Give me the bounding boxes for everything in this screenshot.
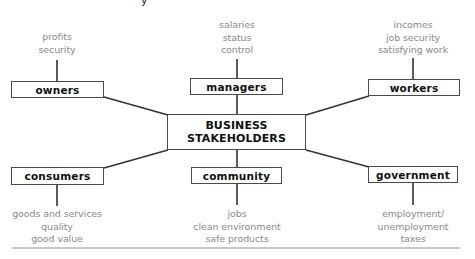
owners-center-connector	[104, 97, 168, 115]
interest-item: safe products	[182, 233, 292, 246]
government-center-connector	[306, 150, 369, 167]
interest-item: taxes	[363, 233, 463, 246]
interest-item: good value	[2, 233, 112, 246]
workers-interests: incomes job security satisfying work	[363, 19, 463, 57]
interest-item: security	[17, 44, 97, 57]
center-title-line1: BUSINESS	[205, 119, 267, 132]
interest-item: clean environment	[182, 221, 292, 234]
consumers-label: consumers	[25, 170, 91, 182]
government-label: government	[376, 169, 450, 181]
interest-item: goods and services	[2, 208, 112, 221]
interest-item: quality	[2, 221, 112, 234]
workers-center-connector	[306, 96, 369, 115]
consumers-interests: goods and services quality good value	[2, 208, 112, 246]
interest-item: salaries	[187, 19, 287, 32]
center-title-line2: STAKEHOLDERS	[187, 132, 286, 145]
managers-box: managers	[190, 78, 283, 95]
interest-item: satisfying work	[363, 44, 463, 57]
interest-item: unemployment	[363, 221, 463, 234]
interest-item: incomes	[363, 19, 463, 32]
interest-item: control	[187, 44, 287, 57]
stakeholder-diagram: y pr	[0, 0, 475, 259]
community-interests: jobs clean environment safe products	[182, 208, 292, 246]
community-box: community	[191, 167, 282, 184]
consumers-center-connector	[104, 150, 168, 168]
interest-item: status	[187, 32, 287, 45]
interest-item: job security	[363, 32, 463, 45]
government-box: government	[368, 166, 458, 183]
workers-box: workers	[368, 79, 460, 96]
managers-label: managers	[206, 81, 266, 93]
business-stakeholders-box: BUSINESS STAKEHOLDERS	[167, 114, 306, 150]
government-interests: employment/ unemployment taxes	[363, 208, 463, 246]
interest-item: profits	[17, 31, 97, 44]
managers-interests: salaries status control	[187, 19, 287, 57]
interest-item: employment/	[363, 208, 463, 221]
community-label: community	[203, 170, 271, 182]
interest-item: jobs	[182, 208, 292, 221]
consumers-box: consumers	[11, 167, 104, 185]
owners-interests: profits security	[17, 31, 97, 56]
bottom-divider	[12, 247, 460, 249]
workers-label: workers	[390, 82, 439, 94]
owners-label: owners	[35, 84, 79, 96]
owners-box: owners	[11, 81, 104, 98]
